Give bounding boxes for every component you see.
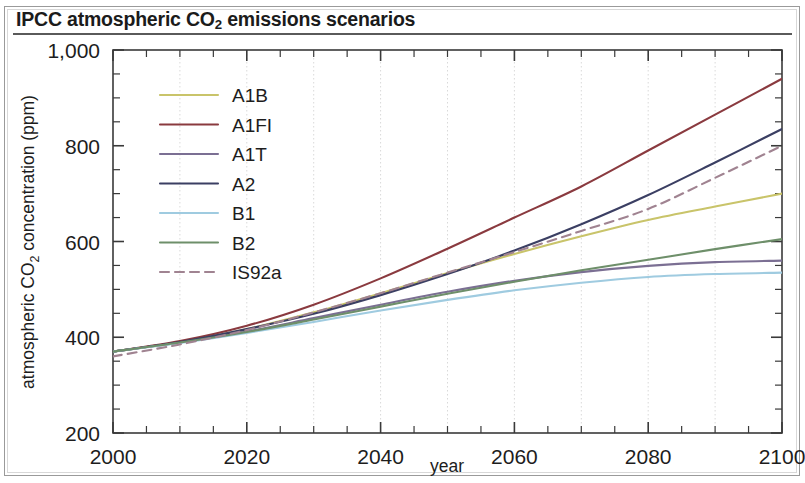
x-tick-label: 2020 [223,445,270,468]
legend-label-a1fi: A1FI [232,115,272,136]
x-tick-label: 2060 [491,445,538,468]
y-tick-label: 200 [65,422,100,445]
x-tick-label: 2100 [759,445,805,468]
y-tick-label: 600 [65,231,100,254]
y-axis-title-prefix: atmospheric CO [18,263,38,389]
x-tick-label: 2000 [90,445,137,468]
legend-label-a2: A2 [232,174,255,195]
line-chart: 200020202040206020802100 2004006008001,0… [0,0,805,483]
y-tick-label: 800 [65,135,100,158]
legend-label-is92a: IS92a [232,262,282,283]
legend-label-a1t: A1T [232,144,267,165]
y-tick-label: 1,000 [47,39,100,62]
chart-figure: IPCC atmospheric CO2 emissions scenarios… [0,0,805,483]
grid-lines [180,50,715,433]
y-axis-title-suffix: concentration (ppm) [18,95,38,256]
y-axis-tick-labels: 2004006008001,000 [47,39,100,445]
series-line-b1 [113,273,782,352]
x-axis-title: year [430,456,464,476]
legend-label-a1b: A1B [232,85,268,106]
y-axis-title: atmospheric CO2 concentration (ppm) [18,95,42,389]
y-axis-title-subscript: 2 [28,256,42,263]
x-tick-label: 2040 [357,445,404,468]
legend-label-b1: B1 [232,203,255,224]
x-tick-label: 2080 [625,445,672,468]
legend-label-b2: B2 [232,233,255,254]
chart-legend: A1BA1FIA1TA2B1B2IS92a [160,85,282,283]
y-tick-label: 400 [65,326,100,349]
